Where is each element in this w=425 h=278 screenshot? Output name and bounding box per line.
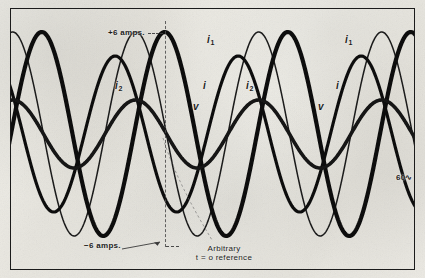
frequency-label: 60∿ bbox=[396, 174, 413, 183]
curve-label-i-left: i bbox=[203, 80, 206, 91]
curve-label-i1-right: i1 bbox=[345, 34, 353, 47]
curve-label-i2-left: i2 bbox=[115, 80, 123, 93]
curve-label-v-left: v bbox=[193, 101, 199, 112]
plus-amps-tick bbox=[148, 33, 163, 34]
curve-label-i1-left-subscript: 1 bbox=[210, 39, 214, 46]
curve-label-i-right: i bbox=[336, 80, 339, 91]
curve-label-v-right: v bbox=[318, 101, 324, 112]
reference-caption: Arbitrary t = o reference bbox=[176, 245, 272, 263]
figure-plate: +6 amps. −6 amps. i1 i1 i2 i2 i i v v 60… bbox=[0, 0, 425, 278]
curve-label-i2-right-subscript: 2 bbox=[249, 85, 253, 92]
curve-label-i1-right-subscript: 1 bbox=[348, 39, 352, 46]
minus-amps-label: −6 amps. bbox=[84, 242, 121, 251]
plus-amps-label: +6 amps. bbox=[108, 29, 145, 38]
reference-leader-line bbox=[160, 136, 218, 246]
reference-caption-line-2: t = o reference bbox=[176, 254, 272, 263]
curve-label-i2-left-subscript: 2 bbox=[118, 85, 122, 92]
curve-label-i1-left: i1 bbox=[207, 34, 215, 47]
curve-label-i2-right: i2 bbox=[246, 80, 254, 93]
